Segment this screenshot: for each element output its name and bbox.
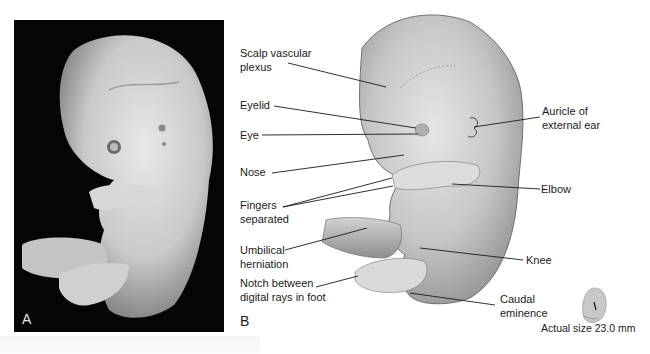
label-auricle-external-ear: Auricle of external ear <box>542 105 600 132</box>
label-line-1: Notch between <box>240 277 326 291</box>
label-fingers-separated: Fingers separated <box>240 199 289 226</box>
label-line-1: Auricle of <box>542 105 600 119</box>
label-eyelid: Eyelid <box>240 99 270 113</box>
label-line-2: plexus <box>240 61 312 75</box>
label-notch-between-digital-rays: Notch between digital rays in foot <box>240 277 326 304</box>
panel-b-diagram: Scalp vascular plexus Eyelid Eye Nose Fi… <box>0 0 650 354</box>
label-line-2: external ear <box>542 119 600 133</box>
label-knee: Knee <box>526 254 552 268</box>
label-eye: Eye <box>240 129 259 143</box>
label-nose: Nose <box>240 166 266 180</box>
label-elbow: Elbow <box>541 183 571 197</box>
label-umbilical-herniation: Umbilical herniation <box>240 244 288 271</box>
label-line-1: Umbilical <box>240 244 288 258</box>
label-line-2: digital rays in foot <box>240 291 326 305</box>
label-line-2: herniation <box>240 258 288 272</box>
bottom-scan-shade <box>0 336 260 354</box>
label-line-2: separated <box>240 213 289 227</box>
panel-b-letter: B <box>240 313 249 329</box>
scale-reference-embryo <box>583 288 606 323</box>
label-line-2: eminence <box>500 307 548 321</box>
scale-caption: Actual size 23.0 mm <box>541 322 636 334</box>
label-scalp-vascular-plexus: Scalp vascular plexus <box>240 47 312 74</box>
label-caudal-eminence: Caudal eminence <box>500 293 548 320</box>
label-line-1: Caudal <box>500 293 548 307</box>
label-line-1: Fingers <box>240 199 289 213</box>
label-line-1: Scalp vascular <box>240 47 312 61</box>
